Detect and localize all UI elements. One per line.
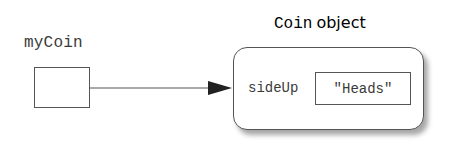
object-class-name: Coin xyxy=(274,15,312,33)
object-title: Coinobject xyxy=(274,13,366,33)
arrowhead-icon xyxy=(208,81,232,95)
field-value-box: "Heads" xyxy=(315,72,411,105)
object-title-suffix: object xyxy=(316,13,365,32)
field-name: sideUp xyxy=(248,80,298,96)
field-value: "Heads" xyxy=(316,73,410,104)
